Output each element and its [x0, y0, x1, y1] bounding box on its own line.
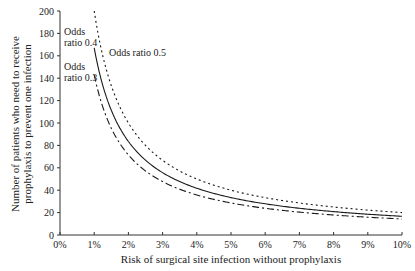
y-tick-label: 60	[44, 162, 54, 173]
x-tick-label: 0%	[53, 239, 66, 250]
y-tick-label: 140	[39, 73, 54, 84]
y-axis-ticks: 020406080100120140160180200	[39, 6, 60, 241]
annotation-odds-ratio-0-4: Odds ratio 0.4	[64, 26, 97, 48]
y-tick-label: 160	[39, 50, 54, 61]
series-line-odds-ratio-0-5	[94, 11, 402, 213]
x-tick-label: 10%	[393, 239, 411, 250]
y-tick-label: 40	[44, 185, 54, 196]
annotation-0-3-line2: ratio 0.3	[64, 72, 97, 83]
series-line-odds-ratio-0-3	[94, 75, 402, 219]
y-axis-title: Number of patients who need to receive p…	[9, 36, 33, 212]
x-tick-label: 5%	[224, 239, 237, 250]
y-tick-label: 20	[44, 207, 54, 218]
annotation-odds-ratio-0-3: Odds ratio 0.3	[64, 61, 97, 83]
y-tick-label: 80	[44, 140, 54, 151]
x-axis-title: Risk of surgical site infection without …	[121, 253, 341, 265]
x-tick-label: 1%	[88, 239, 101, 250]
y-tick-label: 200	[39, 6, 54, 17]
x-tick-label: 9%	[361, 239, 374, 250]
annotation-odds-ratio-0-5: Odds ratio 0.5	[109, 47, 166, 58]
x-tick-label: 4%	[190, 239, 203, 250]
x-tick-label: 8%	[327, 239, 340, 250]
annotation-0-3-line1: Odds	[64, 61, 85, 72]
plot-series	[94, 11, 402, 219]
y-axis-title-line1: Number of patients who need to receive	[9, 36, 21, 212]
chart-canvas: Number of patients who need to receive p…	[0, 0, 415, 271]
y-axis-title-line2: prophylaxis to prevent one infection	[21, 44, 33, 204]
series-line-odds-ratio-0-4	[94, 48, 402, 216]
axes	[60, 11, 402, 235]
x-tick-label: 6%	[259, 239, 272, 250]
x-tick-label: 7%	[293, 239, 306, 250]
x-tick-label: 2%	[122, 239, 135, 250]
y-tick-label: 180	[39, 28, 54, 39]
y-tick-label: 100	[39, 118, 54, 129]
y-tick-label: 120	[39, 95, 54, 106]
annotation-0-4-line1: Odds	[64, 26, 85, 37]
x-tick-label: 3%	[156, 239, 169, 250]
annotation-0-4-line2: ratio 0.4	[64, 37, 97, 48]
